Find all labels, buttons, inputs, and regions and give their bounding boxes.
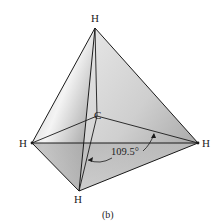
bond-angle-label: 109.5° bbox=[111, 147, 139, 158]
atom-label-center: C bbox=[94, 110, 101, 121]
tetrahedron-diagram: H H H H C 109.5° (b) bbox=[0, 0, 222, 224]
atom-label-left: H bbox=[19, 138, 27, 149]
atom-label-bottom: H bbox=[74, 194, 82, 205]
atom-label-right: H bbox=[202, 138, 210, 149]
vertex-dot bbox=[197, 142, 200, 145]
figure-caption: (b) bbox=[102, 210, 114, 220]
atom-label-top: H bbox=[91, 13, 99, 24]
tetrahedron-figure bbox=[0, 0, 222, 224]
vertex-dot bbox=[31, 142, 34, 145]
